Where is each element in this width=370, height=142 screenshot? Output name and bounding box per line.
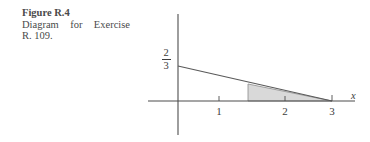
fraction-numerator: 2: [158, 48, 174, 58]
figure-caption: Figure R.4 Diagram for Exercise R. 109.: [22, 7, 142, 42]
x-axis-label: x: [351, 90, 356, 101]
plot-canvas: [140, 0, 370, 142]
x-tick-label-2: 2: [276, 106, 294, 117]
x-tick-label-3: 3: [323, 106, 341, 117]
diagram-figure: 2 3 1 2 3 x: [140, 0, 370, 142]
caption-line-3: R. 109.: [22, 30, 142, 42]
y-intercept-fraction-label: 2 3: [158, 48, 174, 71]
fraction-denominator: 3: [158, 61, 174, 71]
caption-line-2: Diagram for Exercise: [22, 19, 130, 31]
caption-title: Figure R.4: [22, 7, 142, 19]
x-tick-label-1: 1: [210, 106, 228, 117]
figure-page: Figure R.4 Diagram for Exercise R. 109. …: [0, 0, 370, 142]
